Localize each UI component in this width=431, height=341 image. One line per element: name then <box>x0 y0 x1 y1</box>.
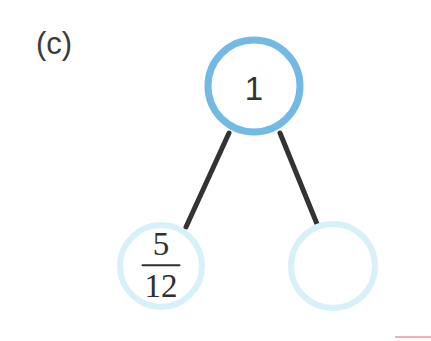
page-edge-artifact <box>395 336 431 338</box>
node-label-whole: 1 <box>245 72 263 105</box>
fraction-bar <box>142 264 181 266</box>
number-bond-diagram <box>0 0 431 341</box>
fraction-5-12: 5 12 <box>142 227 181 304</box>
node-label-part-left: 5 12 <box>142 227 181 304</box>
fraction-numerator: 5 <box>142 227 181 263</box>
figure-canvas: (c) 1 5 12 <box>0 0 431 341</box>
node-circle-part-right[interactable] <box>291 224 375 308</box>
link-whole-to-right <box>280 133 317 224</box>
fraction-denominator: 12 <box>142 269 181 305</box>
link-whole-to-left <box>186 133 229 227</box>
